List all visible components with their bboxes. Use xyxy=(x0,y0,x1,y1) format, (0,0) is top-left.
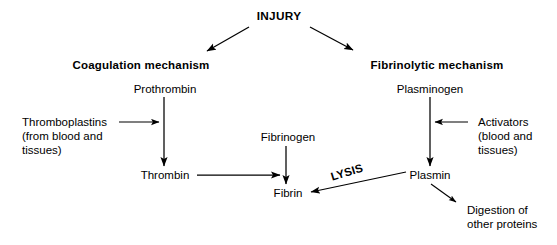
arrow-injury-to-fibrinolytic xyxy=(310,27,353,50)
node-fibrinogen: Fibrinogen xyxy=(261,131,315,143)
node-injury: INJURY xyxy=(257,9,302,23)
node-prothrombin: Prothrombin xyxy=(134,83,197,95)
node-thromboplastins-line-3: tissues) xyxy=(22,144,62,156)
coagulation-fibrinolysis-diagram: INJURY Coagulation mechanism Fibrinolyti… xyxy=(0,0,557,245)
arrow-plasmin-lysis-to-fibrin xyxy=(311,172,406,192)
node-activators-line-3: tissues) xyxy=(478,144,518,156)
node-thromboplastins-line-2: (from blood and xyxy=(22,130,103,142)
node-thrombin: Thrombin xyxy=(141,169,190,181)
node-activators-line-1: Activators xyxy=(478,116,529,128)
node-digestion-line-2: other proteins xyxy=(467,218,538,230)
node-plasmin: Plasmin xyxy=(410,169,451,181)
node-fibrin: Fibrin xyxy=(274,187,303,199)
node-lysis-label: LYSIS xyxy=(329,162,364,183)
arrow-injury-to-coagulation xyxy=(207,27,249,51)
node-fibrinolytic-mechanism: Fibrinolytic mechanism xyxy=(371,59,504,71)
node-activators-line-2: (blood and xyxy=(478,130,532,142)
node-digestion-line-1: Digestion of xyxy=(467,204,529,216)
arrow-plasmin-to-digestion xyxy=(431,184,456,202)
node-coagulation-mechanism: Coagulation mechanism xyxy=(72,59,209,71)
diagram-canvas: INJURY Coagulation mechanism Fibrinolyti… xyxy=(0,0,557,245)
node-thromboplastins-line-1: Thromboplastins xyxy=(22,116,107,128)
node-plasminogen: Plasminogen xyxy=(397,83,463,95)
